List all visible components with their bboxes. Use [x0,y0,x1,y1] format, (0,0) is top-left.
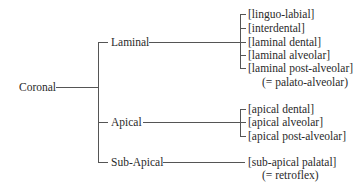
leaf-apical-dental: [apical dental] [248,103,314,116]
node-sub-apical: Sub-Apical [111,156,163,169]
connector-root [56,87,98,88]
leaf-apical-alveolar: [apical alveolar] [248,116,323,129]
tick [240,122,246,123]
tick-laminal [98,42,108,43]
tick [240,109,246,110]
leaf-laminal-post-alveolar: [laminal post-alveolar] [248,62,353,75]
bracket-apical [240,109,241,137]
tick [240,136,246,137]
note-retroflex: (= retroflex) [262,169,319,182]
node-coronal: Coronal [19,81,56,94]
tick-apical [98,122,108,123]
leaf-apical-post-alveolar: [apical post-alveolar] [248,130,346,143]
trunk-line [98,42,99,163]
tick [240,55,246,56]
connector-apical [143,122,240,123]
leaf-laminal-dental: [laminal dental] [248,36,321,49]
note-palato-alveolar: (= palato-alveolar) [262,76,348,89]
leaf-sub-apical-palatal: [sub-apical palatal] [248,156,336,169]
leaf-interdental: [interdental] [248,22,305,35]
node-apical: Apical [111,116,142,129]
tick [240,68,246,69]
tick-sub-apical [98,162,108,163]
node-laminal: Laminal [111,36,149,49]
tick [240,28,246,29]
leaf-laminal-alveolar: [laminal alveolar] [248,49,330,62]
leaf-linguo-labial: [linguo-labial] [248,8,314,21]
connector-laminal [149,42,240,43]
tick [240,14,246,15]
tick [240,42,246,43]
connector-sub-apical [163,162,245,163]
